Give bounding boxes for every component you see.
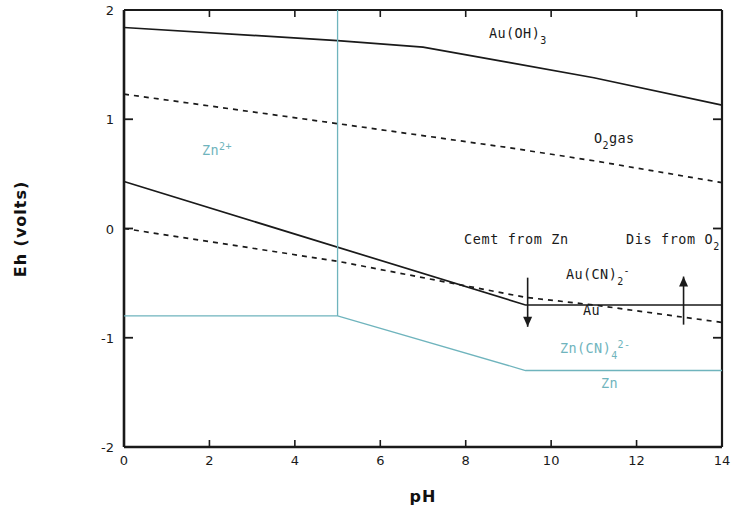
y-tick-label: 1 bbox=[106, 112, 114, 127]
x-tick-label: 2 bbox=[205, 453, 213, 468]
au-label: Au bbox=[583, 302, 600, 318]
chart-page: 02468101214 -2-1012 Au(OH)3 O2gas Zn2+ C… bbox=[0, 0, 736, 513]
x-tick-label: 8 bbox=[462, 453, 470, 468]
pourbaix-diagram: 02468101214 -2-1012 Au(OH)3 O2gas Zn2+ C… bbox=[0, 0, 736, 513]
x-tick-label: 0 bbox=[120, 453, 128, 468]
cemt-from-zn-label: Cemt from Zn bbox=[464, 231, 569, 247]
y-tick-label: 0 bbox=[106, 222, 114, 237]
y-tick-label: 2 bbox=[106, 3, 114, 18]
y-tick-label: -2 bbox=[101, 440, 114, 455]
x-tick-label: 10 bbox=[543, 453, 560, 468]
x-tick-label: 12 bbox=[628, 453, 645, 468]
x-axis-title: pH bbox=[410, 487, 437, 506]
y-axis-title: Eh (volts) bbox=[11, 181, 30, 278]
zn-label: Zn bbox=[601, 375, 618, 391]
x-tick-label: 14 bbox=[714, 453, 731, 468]
x-tick-label: 4 bbox=[291, 453, 299, 468]
y-tick-label: -1 bbox=[101, 331, 114, 346]
x-tick-label: 6 bbox=[376, 453, 384, 468]
